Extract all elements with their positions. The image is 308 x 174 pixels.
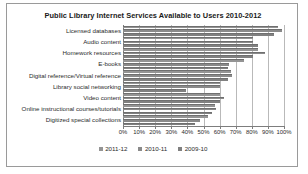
chart-title: Public Library Internet Services Availab… (7, 11, 299, 20)
bar (123, 26, 278, 29)
bar (123, 48, 258, 51)
category-label: Digitized special collections (46, 117, 121, 123)
legend-swatch-icon (138, 147, 142, 151)
bar-group (123, 115, 284, 126)
legend-item: 2011-12 (99, 146, 128, 152)
category-label: Online instructional courses/tutorials (22, 106, 121, 112)
category-label: Homework resources (63, 50, 121, 56)
legend-swatch-icon (178, 147, 182, 151)
bar (123, 70, 231, 73)
legend-label: 2010-11 (145, 146, 167, 152)
category-label: Video content (83, 95, 121, 101)
bar (123, 97, 224, 100)
category-label: E-books (98, 61, 121, 67)
bar (123, 59, 244, 62)
bar (123, 37, 253, 40)
bar (123, 115, 208, 118)
bar (123, 108, 216, 111)
plot-area (123, 25, 284, 126)
bar (123, 52, 265, 55)
bar (123, 29, 282, 32)
bar-group (123, 47, 284, 58)
bar-group (123, 59, 284, 70)
bar (123, 119, 200, 122)
bar (123, 93, 220, 96)
bar-groups (123, 25, 284, 126)
category-label: Licensed databases (66, 28, 121, 34)
category-label: Audio content (83, 39, 121, 45)
gridline-100 (284, 25, 285, 126)
bar-group (123, 70, 284, 81)
legend-swatch-icon (99, 147, 103, 151)
bar (123, 74, 232, 77)
chart-frame: Public Library Internet Services Availab… (6, 3, 298, 167)
bar (123, 41, 253, 44)
legend-item: 2009-10 (178, 146, 207, 152)
bar (123, 85, 220, 88)
bar (123, 63, 229, 66)
bar (123, 82, 220, 85)
bar-group (123, 36, 284, 47)
legend-label: 2011-12 (105, 146, 127, 152)
bar-group (123, 92, 284, 103)
bar-group (123, 81, 284, 92)
legend-item: 2010-11 (138, 146, 167, 152)
category-label: Library social networking (53, 84, 121, 90)
bar-group (123, 104, 284, 115)
bar (123, 104, 215, 107)
x-tick-label: 100% (273, 130, 295, 136)
legend-label: 2009-10 (185, 146, 208, 152)
bar-group (123, 25, 284, 36)
chart-legend: 2011-122010-112009-10 (7, 146, 299, 152)
category-label: Digital reference/Virtual reference (29, 73, 121, 79)
category-axis-labels: Licensed databasesAudio contentHomework … (7, 25, 121, 126)
